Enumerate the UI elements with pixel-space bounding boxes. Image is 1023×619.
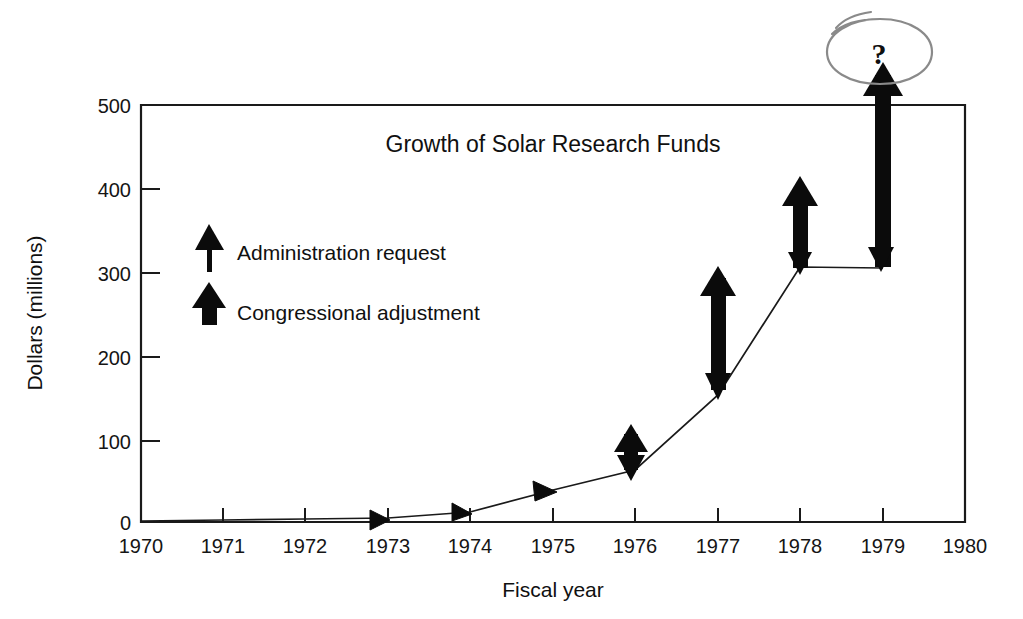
x-axis-title: Fiscal year (502, 578, 604, 601)
datapoint-1978 (782, 176, 818, 275)
x-tick-label: 1979 (861, 535, 906, 557)
x-tick-label: 1977 (696, 535, 741, 557)
y-tick-label: 200 (98, 347, 131, 369)
y-tick-label: 300 (98, 263, 131, 285)
x-tick-label: 1978 (778, 535, 823, 557)
datapoint-1977 (700, 266, 736, 400)
legend-marker-congressional-adjustment (192, 282, 226, 325)
chart-figure: 500 400 300 200 100 0 Dollars (millions)… (0, 0, 1023, 619)
chart-canvas: 500 400 300 200 100 0 Dollars (millions)… (0, 0, 1023, 619)
legend-label-congressional-adjustment: Congressional adjustment (237, 301, 480, 324)
x-tick-label: 1974 (448, 535, 493, 557)
chart-title: Growth of Solar Research Funds (386, 131, 721, 157)
y-tick-label: 400 (98, 179, 131, 201)
request-arrowhead-1975 (533, 481, 557, 501)
x-tick-label: 1980 (943, 535, 988, 557)
legend-label-administration-request: Administration request (237, 241, 446, 264)
legend-marker-administration-request (195, 224, 224, 272)
x-tick-label: 1975 (531, 535, 576, 557)
y-axis-tick-labels: 500 400 300 200 100 0 (98, 95, 131, 534)
x-tick-label: 1972 (283, 535, 328, 557)
x-tick-label: 1973 (366, 535, 411, 557)
x-axis-tick-labels: 1970 1971 1972 1973 1974 1975 1976 1977 … (119, 535, 988, 557)
y-tick-label: 500 (98, 95, 131, 117)
datapoint-1979 (863, 62, 903, 272)
question-mark-label: ? (872, 37, 887, 70)
y-tick-label: 0 (120, 512, 131, 534)
y-axis-ticks (141, 105, 160, 441)
y-axis-title: Dollars (millions) (23, 235, 46, 390)
datapoint-1976 (614, 424, 648, 481)
y-tick-label: 100 (98, 431, 131, 453)
x-tick-label: 1976 (613, 535, 658, 557)
x-tick-label: 1970 (119, 535, 164, 557)
chart-legend: Administration request Congressional adj… (192, 224, 480, 325)
x-tick-label: 1971 (201, 535, 246, 557)
